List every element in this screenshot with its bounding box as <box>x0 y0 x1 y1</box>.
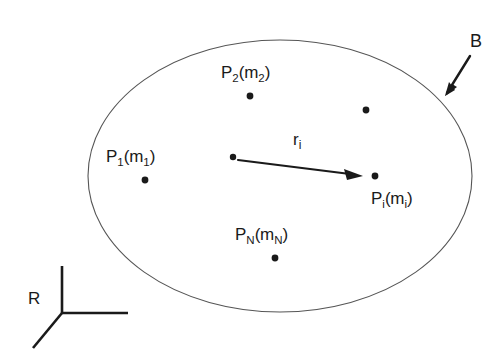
paren-close-p1: ) <box>150 147 155 166</box>
body-label: B <box>470 32 482 50</box>
particle-label-pn-sub: N <box>246 234 254 246</box>
particle-dot-p1 <box>142 177 149 184</box>
position-vector-label-sub: i <box>299 138 302 152</box>
particle-mass-pi-sub: i <box>404 198 407 210</box>
paren-close-pn: ) <box>283 225 288 244</box>
particle-mass-p1-sub: 1 <box>143 156 149 168</box>
particle-mass-pn-sub: N <box>274 234 282 246</box>
position-vector-label-text: r <box>293 130 299 149</box>
particle-dot-pn <box>272 255 279 262</box>
body-boundary-ellipse <box>88 40 472 312</box>
particle-mass-pn: m <box>260 225 274 244</box>
particle-label-p1: P1(m1) <box>106 148 155 165</box>
particle-mass-p2-sub: 2 <box>258 72 264 84</box>
position-vector-arrow <box>238 160 363 180</box>
particle-dot-p2 <box>247 93 254 100</box>
body-pointer-arrow <box>445 56 470 96</box>
particle-label-p1-text: P <box>106 147 117 166</box>
particle-mass-p2: m <box>244 63 258 82</box>
particle-mass-p1: m <box>129 147 143 166</box>
particle-mass-pi: m <box>390 189 404 208</box>
paren-close-pi: ) <box>407 189 412 208</box>
position-vector-label: ri <box>293 131 301 148</box>
particle-dot-pi <box>372 173 379 180</box>
particle-label-p2-text: P <box>221 63 232 82</box>
particle-label-pi-sub: i <box>382 198 385 210</box>
physics-diagram: P1(m1) P2(m2) Pi(mi) PN(mN) ri B R <box>0 0 504 360</box>
paren-close-p2: ) <box>265 63 270 82</box>
particle-label-pi: Pi(mi) <box>371 190 412 207</box>
particle-label-p1-sub: 1 <box>117 156 123 168</box>
vector-origin-dot <box>230 154 236 160</box>
particle-dot-unlabeled <box>363 107 370 114</box>
reference-frame-label: R <box>28 290 40 307</box>
diagram-canvas <box>0 0 504 360</box>
particle-label-p2-sub: 2 <box>232 72 238 84</box>
particle-label-pi-text: P <box>371 189 382 208</box>
particle-label-pn: PN(mN) <box>235 226 288 243</box>
particle-label-pn-text: P <box>235 225 246 244</box>
particle-label-p2: P2(m2) <box>221 64 270 81</box>
reference-frame-triad <box>33 266 128 348</box>
